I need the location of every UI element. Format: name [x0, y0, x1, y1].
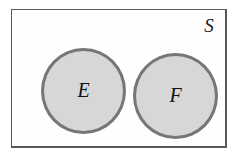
set-circle-f: F [133, 53, 218, 139]
venn-diagram-canvas: E F S [0, 0, 239, 157]
set-label-f: F [169, 85, 181, 107]
universal-set-label: S [198, 14, 220, 38]
set-circle-e: E [41, 48, 126, 134]
universal-set-rectangle: E F [11, 9, 227, 148]
set-label-e: E [77, 80, 89, 102]
